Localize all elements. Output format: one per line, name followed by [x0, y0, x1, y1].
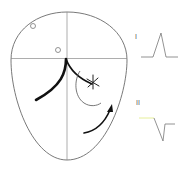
- small-circle-center: [56, 48, 61, 53]
- waveform-ii: [154, 118, 175, 141]
- head-outline: [11, 12, 127, 160]
- head-diagram: [0, 0, 190, 169]
- thick-stroke-left: [36, 59, 66, 100]
- arrow-shaft: [84, 110, 110, 133]
- waveform-i: [141, 33, 178, 57]
- arrow-head-icon: [107, 104, 113, 112]
- waveform-label-i: I: [135, 33, 137, 40]
- small-circle-upper: [31, 24, 36, 29]
- waveform-label-ii: II: [136, 99, 140, 106]
- thick-stroke-right: [66, 59, 92, 84]
